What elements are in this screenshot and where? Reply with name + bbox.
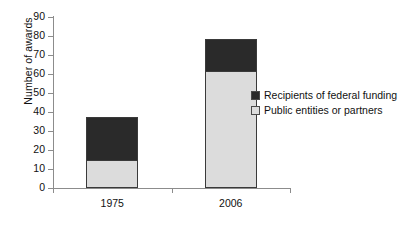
legend-swatch-icon xyxy=(251,106,260,115)
legend-item: Recipients of federal funding xyxy=(251,88,397,103)
x-axis-tick-label: 1975 xyxy=(77,196,147,210)
y-axis-tick: 70 xyxy=(48,55,53,56)
stacked-bar-chart: Number of awards 0102030405060708090 197… xyxy=(0,0,410,225)
y-axis-tick: 60 xyxy=(48,74,53,75)
y-axis-tick-label: 40 xyxy=(19,105,45,118)
y-axis-tick: 40 xyxy=(48,112,53,113)
legend-swatch-icon xyxy=(251,91,260,100)
bar-1975 xyxy=(86,17,138,188)
y-axis-tick-label: 60 xyxy=(19,67,45,80)
x-axis-tick-label: 2006 xyxy=(196,196,266,210)
y-axis-tick: 80 xyxy=(48,36,53,37)
y-axis-tick-label: 30 xyxy=(19,124,45,137)
legend-item-label: Public entities or partners xyxy=(264,104,382,117)
bar-segment xyxy=(86,117,138,162)
y-axis-tick-label: 50 xyxy=(19,86,45,99)
chart-legend: Recipients of federal fundingPublic enti… xyxy=(251,88,397,118)
y-axis-tick: 10 xyxy=(48,169,53,170)
y-axis-tick-label: 90 xyxy=(19,10,45,23)
y-axis-tick: 20 xyxy=(48,150,53,151)
legend-item: Public entities or partners xyxy=(251,103,397,118)
x-axis-tick xyxy=(172,188,173,193)
x-axis-tick xyxy=(290,188,291,193)
bar-2006 xyxy=(205,17,257,188)
x-axis-tick xyxy=(53,188,54,193)
y-axis-tick-label: 0 xyxy=(19,181,45,194)
bar-segment xyxy=(205,39,257,72)
y-axis-tick: 50 xyxy=(48,93,53,94)
y-axis-tick: 90 xyxy=(48,17,53,18)
y-axis-tick-label: 10 xyxy=(19,162,45,175)
y-axis-tick-label: 80 xyxy=(19,29,45,42)
bar-segment xyxy=(205,71,257,188)
bar-segment xyxy=(86,160,138,188)
y-axis-tick: 30 xyxy=(48,131,53,132)
y-axis-tick-label: 20 xyxy=(19,143,45,156)
y-axis-tick-label: 70 xyxy=(19,48,45,61)
legend-item-label: Recipients of federal funding xyxy=(264,89,397,102)
